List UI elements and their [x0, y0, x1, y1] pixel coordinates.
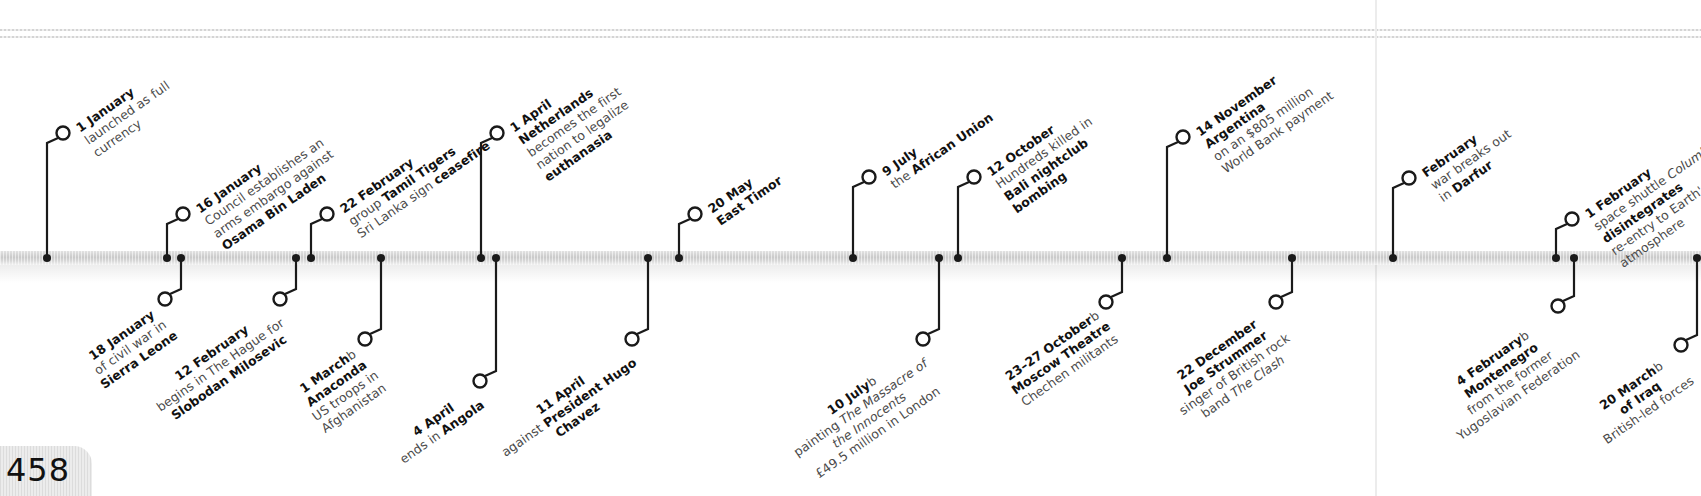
- timeline-connector-above-7: [1163, 131, 1190, 263]
- event-dot-icon: [1389, 254, 1397, 262]
- event-dot-icon: [43, 254, 51, 262]
- event-dot-icon: [1570, 254, 1578, 262]
- timeline-connector-below-2: [359, 254, 386, 346]
- event-ring-icon: [321, 208, 334, 221]
- event-dot-icon: [177, 254, 185, 262]
- event-dot-icon: [1163, 254, 1171, 262]
- timeline-connector-below-5: [917, 254, 944, 346]
- event-ring-icon: [1270, 296, 1283, 309]
- event-dot-icon: [307, 254, 315, 262]
- event-dot-icon: [935, 254, 943, 262]
- event-ring-icon: [1566, 213, 1579, 226]
- event-ring-icon: [1100, 296, 1113, 309]
- timeline-connector-above-1: [163, 208, 190, 263]
- event-dot-icon: [377, 254, 385, 262]
- timeline-connector-below-3: [474, 254, 501, 388]
- page-number: 458: [6, 452, 70, 488]
- event-ring-icon: [626, 333, 639, 346]
- event-ring-icon: [689, 208, 702, 221]
- timeline-connector-below-7: [1270, 254, 1297, 309]
- event-dot-icon: [849, 254, 857, 262]
- event-dot-icon: [1118, 254, 1126, 262]
- event-ring-icon: [1552, 300, 1565, 313]
- timeline-connector-below-0: [159, 254, 186, 306]
- event-ring-icon: [1675, 339, 1688, 352]
- timeline-connector-above-8: [1389, 172, 1416, 263]
- event-ring-icon: [159, 293, 172, 306]
- event-ring-icon: [863, 171, 876, 184]
- timeline-connector-above-4: [675, 208, 702, 263]
- timeline-connector-below-1: [274, 254, 301, 306]
- event-dot-icon: [292, 254, 300, 262]
- event-dot-icon: [644, 254, 652, 262]
- event-dot-icon: [675, 254, 683, 262]
- event-dot-icon: [477, 254, 485, 262]
- event-ring-icon: [917, 333, 930, 346]
- event-dot-icon: [492, 254, 500, 262]
- event-dot-icon: [954, 254, 962, 262]
- timeline-connector-below-9: [1675, 254, 1701, 352]
- event-ring-icon: [474, 375, 487, 388]
- timeline-connector-above-5: [849, 171, 876, 263]
- timeline-connector-above-0: [43, 127, 70, 263]
- event-ring-icon: [177, 208, 190, 221]
- timeline-connector-below-4: [626, 254, 653, 346]
- event-dot-icon: [1288, 254, 1296, 262]
- event-ring-icon: [274, 293, 287, 306]
- event-ring-icon: [1177, 131, 1190, 144]
- event-ring-icon: [57, 127, 70, 140]
- event-ring-icon: [968, 171, 981, 184]
- event-ring-icon: [491, 127, 504, 140]
- event-ring-icon: [1403, 172, 1416, 185]
- event-dot-icon: [163, 254, 171, 262]
- timeline-connector-above-2: [307, 208, 334, 263]
- timeline-connector-above-6: [954, 171, 981, 263]
- timeline-connector-below-6: [1100, 254, 1127, 309]
- event-dot-icon: [1552, 254, 1560, 262]
- event-ring-icon: [359, 333, 372, 346]
- event-dot-icon: [1693, 254, 1701, 262]
- timeline-connector-below-8: [1552, 254, 1579, 313]
